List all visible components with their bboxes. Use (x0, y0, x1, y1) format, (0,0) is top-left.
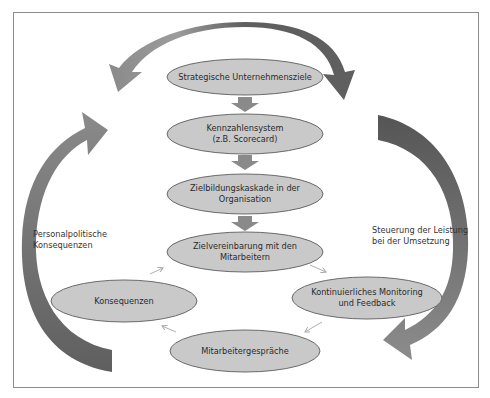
thin-arrow-icon (305, 322, 322, 332)
side-label-line: bei der Umsetzung (372, 236, 450, 246)
node-monitoring: Kontinuierliches Monitoring und Feedback (292, 277, 442, 319)
thin-arrow-icon (162, 326, 176, 332)
node-label: Konsequenzen (94, 296, 154, 306)
diagram-canvas: Strategische Unternehmensziele Kennzahle… (0, 0, 490, 398)
node-label: Zielvereinbarung mit den (193, 241, 297, 251)
node-label: Organisation (219, 194, 271, 204)
node-strategic-goals: Strategische Unternehmensziele (167, 59, 323, 95)
node-kpi-system: Kennzahlensystem (z.B. Scorecard) (167, 114, 323, 154)
node-label: Kontinuierliches Monitoring (311, 287, 423, 297)
node-employee-talks: Mitarbeitergespräche (170, 330, 320, 372)
node-label: Mitarbeitergespräche (201, 346, 289, 356)
side-label-line: Personalpolitische (33, 229, 107, 239)
node-label: Mitarbeitern (220, 252, 270, 262)
node-consequences: Konsequenzen (51, 280, 197, 322)
thin-arrow-icon (310, 265, 326, 272)
node-label: Zielbildungskaskade in der (190, 183, 301, 193)
thin-arrow-icon (150, 268, 163, 274)
left-side-label: Personalpolitische Konsequenzen (33, 229, 107, 250)
node-label: (z.B. Scorecard) (213, 134, 278, 144)
side-label-line: Steuerung der Leistung (372, 225, 468, 235)
side-label-line: Konsequenzen (33, 240, 93, 250)
node-goal-agreement: Zielvereinbarung mit den Mitarbeitern (167, 232, 323, 272)
node-label: Kennzahlensystem (207, 123, 284, 133)
node-label: und Feedback (338, 298, 395, 308)
node-goal-cascade: Zielbildungskaskade in der Organisation (167, 174, 323, 214)
node-label: Strategische Unternehmensziele (178, 72, 312, 82)
